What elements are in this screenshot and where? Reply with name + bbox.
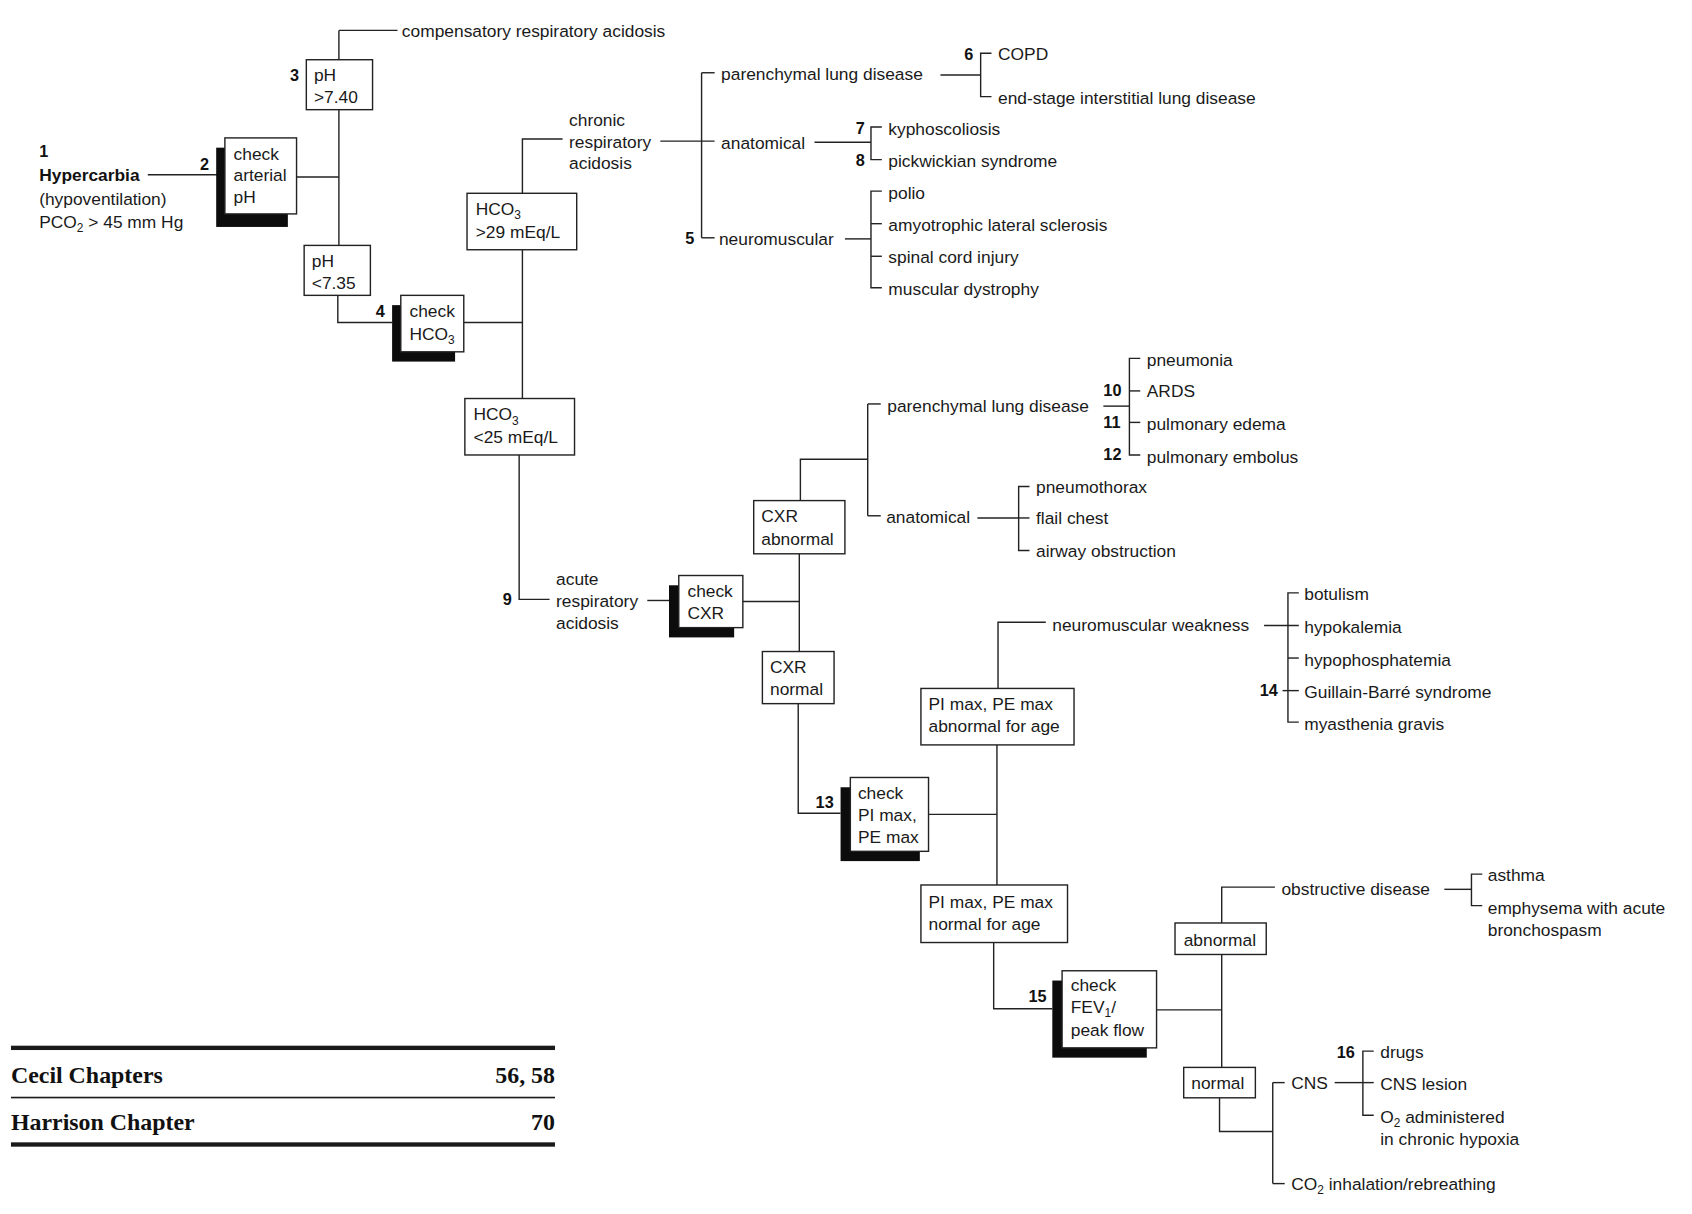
pimax-abnormal-box: PI max, PE max abnormal for age	[921, 688, 1074, 744]
svg-text:8: 8	[856, 151, 865, 169]
svg-text:CNS lesion: CNS lesion	[1380, 1074, 1467, 1094]
hco3-above-29-box: HCO3 >29 mEq/L	[467, 193, 577, 249]
svg-text:PI max, PE max: PI max, PE max	[929, 694, 1054, 714]
chronic-neuromuscular: neuromuscular	[719, 229, 834, 249]
svg-text:O2 administered: O2 administered	[1380, 1107, 1504, 1130]
hco3-below-25-box: HCO3 <25 mEq/L	[465, 399, 575, 455]
svg-text:pH: pH	[312, 251, 334, 271]
step-number: 1	[39, 142, 48, 160]
svg-text:14: 14	[1260, 681, 1278, 699]
check-arterial-ph-box: 2 check arterial pH	[200, 138, 297, 227]
svg-text:10: 10	[1103, 381, 1121, 399]
svg-text:ARDS: ARDS	[1147, 381, 1195, 401]
svg-text:hypokalemia: hypokalemia	[1304, 617, 1402, 637]
svg-text:arterial: arterial	[234, 165, 287, 185]
svg-text:16: 16	[1337, 1043, 1355, 1061]
obstructive-disease: obstructive disease	[1281, 879, 1430, 899]
step-number: 2	[200, 155, 209, 173]
svg-text:3: 3	[290, 66, 299, 84]
svg-text:normal: normal	[1191, 1073, 1244, 1093]
svg-text:normal for age: normal for age	[929, 914, 1041, 934]
svg-text:11: 11	[1103, 413, 1120, 431]
svg-text:hypophosphatemia: hypophosphatemia	[1304, 650, 1451, 670]
svg-text:Guillain-Barré syndrome: Guillain-Barré syndrome	[1304, 682, 1491, 702]
svg-text:6: 6	[964, 45, 973, 63]
svg-text:7: 7	[856, 119, 865, 137]
ph-above-740-box: 3 pH >7.40	[290, 60, 373, 110]
svg-text:asthma: asthma	[1488, 865, 1545, 885]
svg-text:acute: acute	[556, 569, 598, 589]
reference-value: 70	[531, 1109, 555, 1135]
start-title: Hypercarbia	[39, 165, 140, 185]
cns: CNS	[1291, 1073, 1328, 1093]
fev-abnormal-box: abnormal	[1175, 923, 1266, 954]
svg-text:bronchospasm: bronchospasm	[1488, 920, 1602, 940]
svg-text:acidosis: acidosis	[569, 153, 632, 173]
check-hco3-box: 4 check HCO3	[376, 295, 464, 361]
svg-text:PI max, PE max: PI max, PE max	[929, 892, 1054, 912]
svg-text:normal: normal	[770, 679, 823, 699]
svg-text:5: 5	[685, 229, 694, 247]
fev-normal-box: normal	[1184, 1067, 1256, 1097]
svg-text:spinal cord injury: spinal cord injury	[888, 247, 1019, 267]
svg-text:polio: polio	[888, 183, 925, 203]
cxr-abnormal-box: CXR abnormal	[754, 501, 845, 554]
svg-text:abnormal: abnormal	[1184, 930, 1256, 950]
cxr-normal-box: CXR normal	[762, 652, 834, 704]
svg-text:in chronic hypoxia: in chronic hypoxia	[1380, 1129, 1519, 1149]
chapter-references: Cecil Chapters 56, 58 Harrison Chapter 7…	[11, 1046, 555, 1147]
svg-text:>29 mEq/L: >29 mEq/L	[476, 222, 561, 242]
start-node: 1 Hypercarbia (hypoventilation) PCO2 > 4…	[39, 142, 183, 235]
chronic-parenchymal-lung-disease: parenchymal lung disease	[721, 64, 923, 84]
svg-text:CXR: CXR	[770, 657, 807, 677]
svg-text:check: check	[687, 581, 733, 601]
svg-text:<25 mEq/L: <25 mEq/L	[474, 427, 559, 447]
svg-text:respiratory: respiratory	[556, 591, 638, 611]
ph-below-735-box: pH <7.35	[304, 245, 370, 295]
svg-text:12: 12	[1103, 445, 1121, 463]
acute-parenchymal-lung-disease: parenchymal lung disease	[887, 396, 1089, 416]
svg-text:check: check	[858, 783, 904, 803]
svg-text:peak flow: peak flow	[1071, 1020, 1145, 1040]
hypercarbia-flowchart: 1 Hypercarbia (hypoventilation) PCO2 > 4…	[0, 0, 1692, 1214]
svg-text:flail chest: flail chest	[1036, 508, 1109, 528]
svg-text:PE max: PE max	[858, 827, 919, 847]
svg-text:amyotrophic lateral sclerosis: amyotrophic lateral sclerosis	[888, 215, 1107, 235]
acute-anatomical: anatomical	[886, 507, 970, 527]
svg-text:pneumothorax: pneumothorax	[1036, 477, 1147, 497]
svg-text:pneumonia: pneumonia	[1147, 350, 1233, 370]
item-ild: end-stage interstitial lung disease	[998, 88, 1256, 108]
reference-label: Harrison Chapter	[11, 1109, 195, 1135]
svg-text:CXR: CXR	[761, 506, 798, 526]
svg-text:PI max,: PI max,	[858, 805, 917, 825]
svg-text:abnormal for age: abnormal for age	[929, 716, 1060, 736]
compensatory-respiratory-acidosis: compensatory respiratory acidosis	[402, 21, 666, 41]
svg-text:>7.40: >7.40	[314, 87, 358, 107]
svg-text:9: 9	[503, 590, 512, 608]
svg-text:abnormal: abnormal	[761, 529, 833, 549]
svg-text:emphysema with acute: emphysema with acute	[1488, 898, 1666, 918]
reference-value: 56, 58	[495, 1062, 555, 1088]
svg-text:pulmonary edema: pulmonary edema	[1147, 414, 1286, 434]
check-fev1-box: 15 check FEV1/ peak flow	[1028, 971, 1156, 1058]
pimax-normal-box: PI max, PE max normal for age	[921, 885, 1068, 943]
svg-text:pulmonary embolus: pulmonary embolus	[1147, 447, 1299, 467]
svg-text:drugs: drugs	[1380, 1042, 1424, 1062]
svg-text:<7.35: <7.35	[312, 273, 356, 293]
svg-text:13: 13	[816, 793, 834, 811]
reference-label: Cecil Chapters	[11, 1062, 163, 1088]
start-criterion: PCO2 > 45 mm Hg	[39, 212, 183, 235]
svg-text:check: check	[409, 301, 455, 321]
acute-respiratory-acidosis: acute respiratory acidosis	[556, 569, 638, 632]
svg-text:pH: pH	[234, 187, 256, 207]
svg-text:pH: pH	[314, 65, 336, 85]
svg-text:airway obstruction: airway obstruction	[1036, 541, 1176, 561]
svg-text:4: 4	[376, 302, 385, 320]
svg-text:chronic: chronic	[569, 110, 625, 130]
svg-text:pickwickian syndrome: pickwickian syndrome	[888, 151, 1057, 171]
co2-inhalation: CO2 inhalation/rebreathing	[1291, 1174, 1495, 1197]
svg-text:15: 15	[1028, 987, 1046, 1005]
chronic-respiratory-acidosis: chronic respiratory acidosis	[569, 110, 651, 173]
svg-text:myasthenia gravis: myasthenia gravis	[1304, 714, 1444, 734]
start-subtitle: (hypoventilation)	[39, 189, 166, 209]
